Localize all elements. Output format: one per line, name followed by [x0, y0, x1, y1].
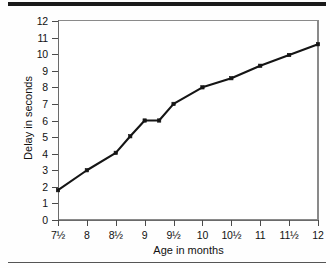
- data-point-marker: [230, 77, 233, 80]
- series-markers: [56, 43, 319, 192]
- figure-page: 0123456789101112 7½88½99½1010½1111½12 Ag…: [0, 0, 330, 268]
- data-point-marker: [143, 119, 146, 122]
- data-point-marker: [287, 53, 290, 56]
- data-point-marker: [157, 119, 160, 122]
- data-point-marker: [201, 86, 204, 89]
- line-chart: 0123456789101112 7½88½99½1010½1111½12 Ag…: [0, 8, 330, 260]
- top-divider-rule: [8, 2, 326, 6]
- data-point-marker: [129, 135, 132, 138]
- data-point-marker: [56, 188, 59, 191]
- data-point-marker: [172, 102, 175, 105]
- y-axis-title: Delay in seconds: [22, 38, 34, 198]
- data-point-marker: [259, 64, 262, 67]
- series-plot: [0, 8, 330, 260]
- data-point-marker: [85, 169, 88, 172]
- x-axis-title: Age in months: [58, 244, 319, 256]
- data-point-marker: [316, 43, 319, 46]
- data-point-marker: [114, 151, 117, 154]
- series-line-delay: [58, 44, 318, 190]
- bottom-divider-rule: [8, 262, 326, 263]
